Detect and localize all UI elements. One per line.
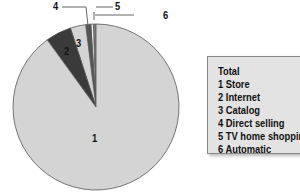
slice-label-1: 1 [92, 132, 97, 144]
legend: Total 1 Store 2 Internet 3 Catalog 4 Dir… [207, 56, 300, 154]
slice-label-3: 3 [76, 37, 81, 49]
slice-label-6: 6 [163, 9, 168, 21]
pie-slice-1 [13, 24, 179, 190]
legend-item: 4 Direct selling [218, 117, 300, 130]
slice-label-2: 2 [64, 45, 69, 57]
slice-label-4: 4 [53, 0, 58, 12]
legend-item: 3 Catalog [218, 104, 300, 117]
legend-item: 2 Internet [218, 91, 300, 104]
slice-label-5: 5 [115, 0, 120, 12]
legend-item: 1 Store [218, 78, 300, 91]
leader-lines [62, 7, 134, 26]
legend-item: 6 Automatic [218, 143, 300, 156]
legend-item: 5 TV home shopping [218, 130, 300, 143]
legend-title: Total [218, 65, 300, 78]
